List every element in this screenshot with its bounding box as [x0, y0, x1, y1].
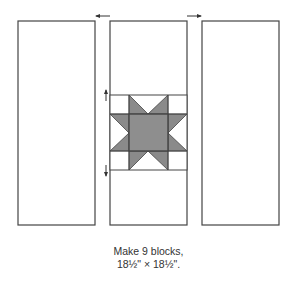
right-arrow-icon	[187, 14, 202, 18]
right-strip	[202, 21, 279, 225]
caption-line-1: Make 9 blocks,	[0, 245, 297, 258]
caption-line-2: 18½" × 18½".	[0, 258, 297, 271]
sawtooth-star-block	[110, 95, 187, 170]
down-arrow-icon	[104, 165, 108, 177]
caption: Make 9 blocks, 18½" × 18½".	[0, 245, 297, 271]
left-strip	[18, 21, 95, 225]
star-center	[129, 114, 168, 151]
center-strip	[110, 21, 187, 225]
left-arrow-icon	[95, 14, 110, 18]
up-arrow-icon	[104, 89, 108, 101]
